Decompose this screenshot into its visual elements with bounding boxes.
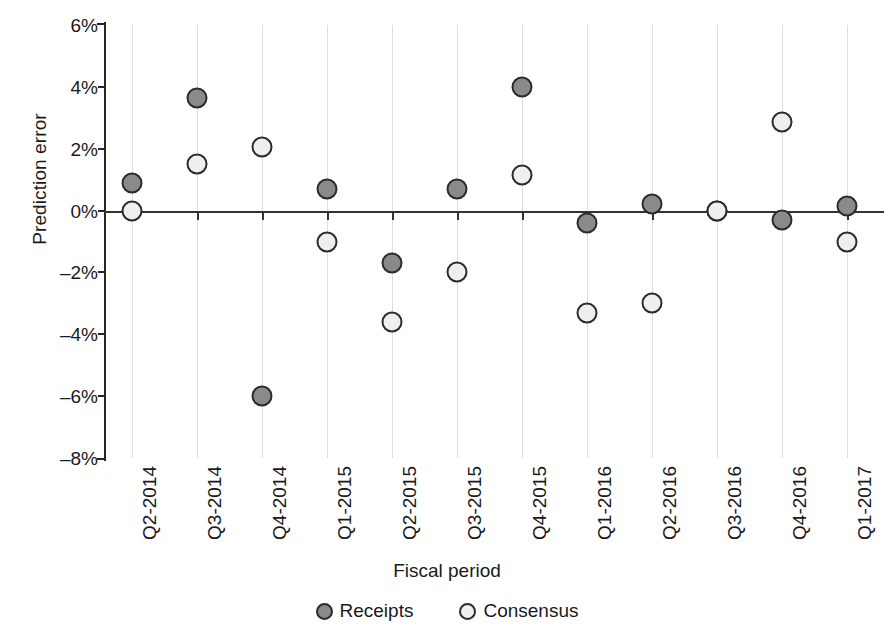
data-point-consensus — [251, 137, 272, 158]
x-axis-tick-mark — [197, 211, 199, 220]
y-axis-tick-label: –6% — [40, 387, 98, 406]
data-point-receipts — [836, 195, 857, 216]
y-axis-tick-label: 2% — [40, 139, 98, 158]
legend-marker-icon — [459, 603, 476, 620]
data-point-consensus — [836, 231, 857, 252]
data-point-receipts — [251, 386, 272, 407]
gridline — [587, 25, 588, 458]
x-axis-title: Fiscal period — [0, 560, 894, 582]
y-axis-tick-label: –2% — [40, 263, 98, 282]
y-axis-tick-label: 6% — [40, 16, 98, 35]
data-point-consensus — [446, 262, 467, 283]
data-point-consensus — [186, 154, 207, 175]
legend-item-consensus[interactable]: Consensus — [459, 600, 578, 622]
x-axis-tick-mark — [522, 211, 524, 220]
data-point-receipts — [186, 87, 207, 108]
data-point-consensus — [511, 165, 532, 186]
y-axis-tick-label: 4% — [40, 77, 98, 96]
y-axis-end-cap — [97, 23, 104, 25]
data-point-consensus — [121, 200, 142, 221]
prediction-error-scatter-chart: Prediction error 6%4%2%0%–2%–4%–6%–8% Q2… — [0, 0, 894, 640]
y-axis-tick-label: 0% — [40, 201, 98, 220]
data-point-consensus — [316, 231, 337, 252]
chart-legend: ReceiptsConsensus — [0, 600, 894, 622]
y-axis-end-cap — [97, 458, 104, 460]
legend-label: Consensus — [483, 600, 578, 622]
data-point-receipts — [576, 212, 597, 233]
gridline — [457, 25, 458, 458]
data-point-receipts — [381, 253, 402, 274]
x-axis-tick-mark — [457, 211, 459, 220]
data-point-receipts — [446, 178, 467, 199]
data-point-receipts — [771, 209, 792, 230]
plot-area — [104, 25, 884, 458]
gridline — [652, 25, 653, 458]
x-axis-tick-mark — [327, 211, 329, 220]
data-point-consensus — [706, 200, 727, 221]
data-point-receipts — [641, 194, 662, 215]
y-axis-tick-label: –8% — [40, 449, 98, 468]
gridline — [717, 25, 718, 458]
data-point-receipts — [511, 76, 532, 97]
data-point-consensus — [381, 311, 402, 332]
legend-item-receipts[interactable]: Receipts — [316, 600, 414, 622]
zero-line — [104, 211, 884, 213]
x-axis-tick-mark — [392, 211, 394, 220]
x-axis-tick-mark — [262, 211, 264, 220]
data-point-consensus — [771, 112, 792, 133]
legend-label: Receipts — [340, 600, 414, 622]
y-axis-tick-label: –4% — [40, 325, 98, 344]
gridline — [392, 25, 393, 458]
data-point-receipts — [316, 178, 337, 199]
gridline — [782, 25, 783, 458]
gridline — [132, 25, 133, 458]
data-point-consensus — [576, 302, 597, 323]
data-point-receipts — [121, 172, 142, 193]
y-axis-line — [104, 22, 106, 461]
data-point-consensus — [641, 293, 662, 314]
legend-marker-icon — [316, 603, 333, 620]
